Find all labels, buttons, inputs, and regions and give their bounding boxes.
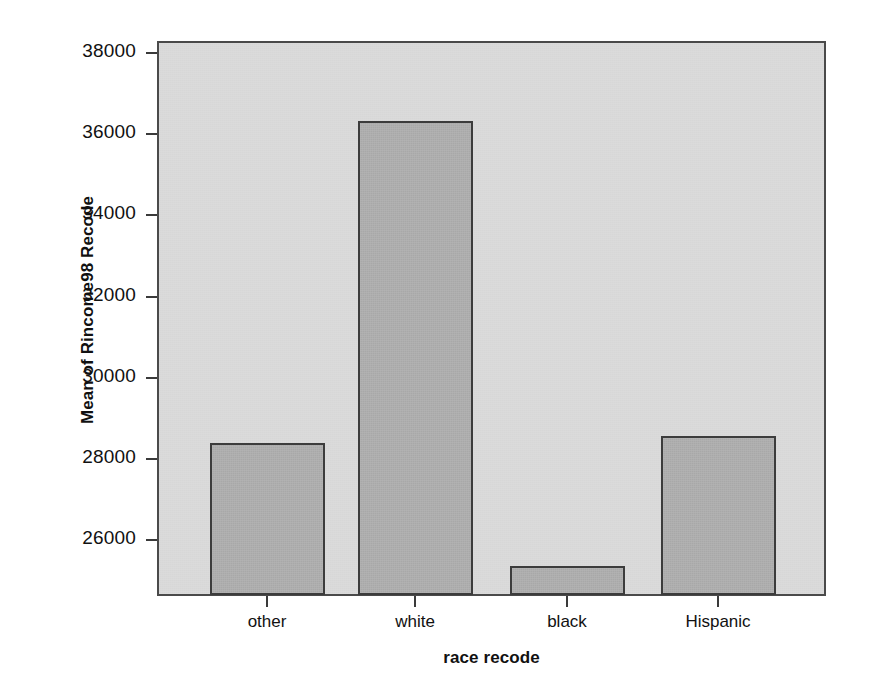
y-tick-mark [146,377,157,379]
y-tick-label: 30000 [0,365,136,387]
y-tick-mark [146,52,157,54]
bar-texture-overlay [360,123,471,593]
y-tick-mark [146,458,157,460]
x-axis-title: race recode [157,648,826,668]
y-tick-label: 36000 [0,121,136,143]
y-tick-mark [146,133,157,135]
bar-other [210,443,325,595]
y-tick-label: 34000 [0,202,136,224]
y-tick-mark [146,214,157,216]
bar-white [358,121,473,595]
y-tick-mark [146,296,157,298]
y-tick-label: 28000 [0,446,136,468]
bar-chart: Mean of Rincome98 Recode 260002800030000… [0,0,870,691]
y-tick-mark [146,539,157,541]
x-tick-label: Hispanic [628,612,808,632]
x-tick-mark [266,596,268,607]
bar-black [510,566,625,595]
y-tick-label: 38000 [0,40,136,62]
y-tick-label: 32000 [0,284,136,306]
bar-texture-overlay [512,568,623,593]
x-tick-mark [717,596,719,607]
y-tick-label: 26000 [0,527,136,549]
x-tick-mark [566,596,568,607]
bar-texture-overlay [663,438,774,593]
bar-texture-overlay [212,445,323,593]
x-tick-mark [414,596,416,607]
bar-hispanic [661,436,776,595]
